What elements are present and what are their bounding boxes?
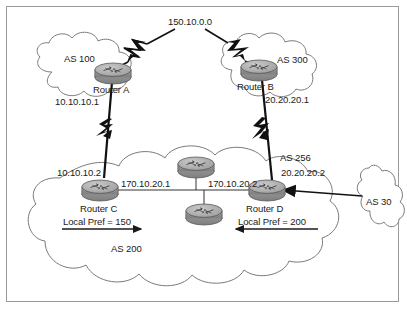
label-ip-router-b: 20.20.20.1 [265, 94, 309, 105]
label-router-b: Router B [237, 81, 274, 92]
label-ip-router-d-external: 20.20.20.2 [281, 167, 325, 178]
router-icon-a [95, 63, 131, 84]
label-ip-router-d-internal: 170.10.20.2 [208, 178, 257, 189]
label-transit-prefix: 150.10.0.0 [168, 16, 212, 27]
label-local-pref-c: Local Pref = 150 [63, 216, 131, 227]
label-ip-router-c-internal: 170.10.20.1 [121, 178, 170, 189]
router-icon-core-top [178, 157, 214, 178]
router-icon-c [82, 180, 118, 201]
router-icon-b [241, 60, 277, 81]
label-router-a: Router A [93, 84, 129, 95]
label-as-200: AS 200 [111, 243, 142, 254]
router-icon-core-bottom [186, 204, 222, 225]
label-router-c: Router C [80, 203, 117, 214]
label-local-pref-d: Local Pref = 200 [238, 216, 306, 227]
label-ip-router-a: 10.10.10.1 [55, 96, 99, 107]
diagram-page: 150.10.0.0 AS 100 Router A 10.10.10.1 AS… [0, 0, 407, 310]
link-transit-to-router-a [120, 29, 175, 66]
label-as-300: AS 300 [277, 54, 308, 65]
network-diagram-canvas [0, 0, 407, 310]
label-as-256: AS 256 [280, 152, 311, 163]
label-as-30: AS 30 [366, 196, 391, 207]
label-ip-router-c-external: 10.10.10.2 [57, 167, 101, 178]
label-as-100: AS 100 [64, 53, 95, 64]
label-router-d: Router D [246, 203, 283, 214]
